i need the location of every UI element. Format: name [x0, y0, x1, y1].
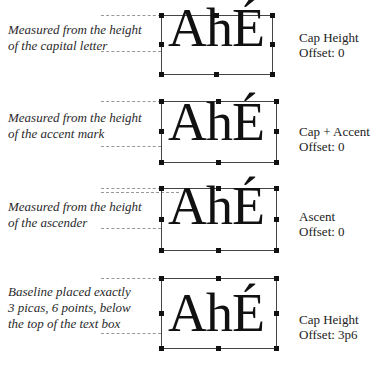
sample-glyphs: AhÉ — [168, 282, 264, 344]
resize-handle[interactable] — [159, 346, 164, 351]
offset-label: Offset: 3p6 — [299, 327, 358, 343]
resize-handle[interactable] — [159, 311, 164, 316]
resize-handle[interactable] — [274, 311, 279, 316]
resize-handle[interactable] — [216, 346, 221, 351]
guide-top — [101, 278, 161, 279]
resize-handle[interactable] — [274, 346, 279, 351]
resize-handle[interactable] — [274, 276, 279, 281]
setting-label: Cap Height — [299, 312, 359, 328]
text-frame[interactable]: AhÉ — [161, 278, 277, 349]
resize-handle[interactable] — [159, 276, 164, 281]
caption: Baseline placed exactly 3 picas, 6 point… — [8, 284, 131, 332]
resize-handle[interactable] — [216, 276, 221, 281]
panel-cap-height-offset: Baseline placed exactly 3 picas, 6 point… — [0, 0, 380, 370]
guide-baseline — [101, 333, 161, 334]
